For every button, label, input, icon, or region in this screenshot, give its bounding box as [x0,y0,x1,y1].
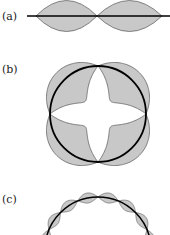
panel-c-figure [41,193,155,235]
panel-b-figure [46,62,149,165]
panel-a-figure [27,1,170,32]
standing-wave-diagram [0,0,170,235]
